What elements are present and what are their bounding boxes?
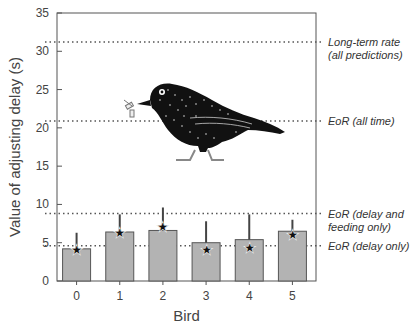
y-axis-label: Value of adjusting delay (s) (6, 57, 23, 237)
star-marker: ★ (243, 239, 256, 256)
y-tick-label: 0 (42, 274, 49, 288)
star-marker: ★ (113, 224, 126, 241)
x-tick-label: 5 (289, 289, 296, 303)
star-marker: ★ (200, 241, 213, 258)
y-tick-label: 5 (42, 236, 49, 250)
x-tick-label: 2 (160, 289, 167, 303)
y-tick-label: 35 (36, 6, 50, 20)
star-marker: ★ (286, 226, 299, 243)
y-tick-label: 15 (36, 159, 50, 173)
reference-line-label: EoR (delay and (328, 208, 405, 220)
reference-lines: Long-term rate(all predictions)EoR (all … (45, 36, 410, 252)
y-tick-label: 30 (36, 44, 50, 58)
bars: ★0★1★2★3★4★5 (63, 207, 307, 303)
y-tick-label: 25 (36, 83, 50, 97)
x-tick-label: 3 (203, 289, 210, 303)
starling-illustration (124, 84, 285, 160)
plot-frame (57, 13, 316, 281)
x-tick-label: 4 (246, 289, 253, 303)
star-marker: ★ (156, 218, 169, 235)
reference-line-label: Long-term rate (328, 36, 400, 48)
reference-line-label: (all predictions) (328, 49, 403, 61)
bar-chart: 05101520253035 Long-term rate(all predic… (0, 0, 412, 328)
x-tick-label: 0 (73, 289, 80, 303)
star-marker: ★ (70, 241, 83, 258)
reference-line-label: EoR (delay only) (328, 240, 410, 252)
reference-line-label: feeding only) (328, 221, 391, 233)
x-tick-label: 1 (116, 289, 123, 303)
reference-line-label: EoR (all time) (328, 115, 395, 127)
y-tick-label: 10 (36, 197, 50, 211)
bar (149, 230, 177, 281)
y-tick-label: 20 (36, 121, 50, 135)
x-axis-label: Bird (173, 307, 200, 324)
